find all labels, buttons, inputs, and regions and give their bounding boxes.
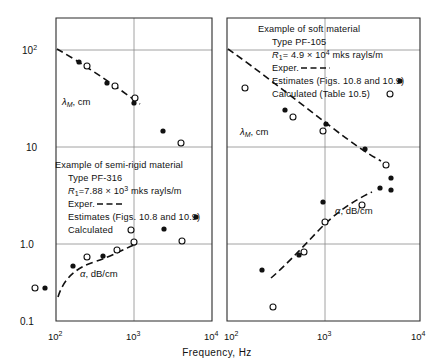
panel-right-alpha-label: α, dB/cm	[335, 205, 373, 216]
panel-left: λM, cm α, dB/cm Example of semi-rigid ma…	[32, 18, 212, 321]
panel-left-legend-title: Example of semi-rigid material	[55, 160, 183, 170]
panel-left-legend-calculated: Calculated	[68, 225, 113, 235]
panel-left-legend-estimates: Estimates (Figs. 10.8 and 10.9)	[68, 212, 200, 222]
panel-right-legend-estimates: Estimates (Figs. 10.8 and 10.9)	[272, 76, 404, 86]
panel-left-alpha-estimates	[42, 226, 166, 290]
panel-left-legend: Example of semi-rigid material Type PF-3…	[55, 160, 200, 235]
panel-left-alpha-calculated	[32, 238, 185, 291]
x-tick-right-10000: 104	[411, 330, 426, 342]
y-tick-0.1: 0.1	[20, 316, 34, 327]
x-tick-right-1000: 103	[317, 330, 332, 342]
figure-container: λM, cm α, dB/cm Example of semi-rigid ma…	[0, 0, 434, 360]
panel-left-lambda-label: λM, cm	[61, 96, 91, 108]
panel-right-gridlines	[227, 18, 420, 321]
panel-right: λM, cm α, dB/cm Example of soft material…	[227, 18, 420, 321]
panel-right-lambda-fit	[228, 49, 381, 161]
panel-right-legend-resistivity: R1= 4.9 × 104 mks rayls/m	[272, 49, 383, 61]
x-axis-ticklabels: 102 103 104 102 103 104	[48, 330, 426, 342]
panel-right-legend-type: Type PF-105	[272, 37, 326, 47]
x-tick-left-10000: 104	[204, 330, 219, 342]
panel-left-alpha-label: α, dB/cm	[80, 268, 118, 279]
panel-right-legend-calculated-marker	[387, 91, 393, 97]
panel-left-lambda-fit	[57, 49, 140, 104]
panel-right-legend-estimates-marker	[397, 78, 402, 83]
panel-left-legend-resistivity: R1=7.88 × 103 mks rayls/m	[68, 185, 182, 197]
y-tick-100: 102	[22, 44, 37, 56]
panel-left-legend-type: Type PF-316	[68, 173, 122, 183]
panel-left-legend-estimates-marker	[193, 214, 198, 219]
x-tick-right-100: 102	[224, 330, 239, 342]
panel-left-legend-calculated-marker	[128, 227, 134, 233]
panel-right-lambda-label: λM, cm	[239, 126, 269, 138]
x-axis-title: Frequency, Hz	[182, 347, 251, 358]
panel-right-legend-exper: Exper.	[272, 63, 299, 73]
y-tick-1: 1.0	[20, 239, 34, 250]
x-tick-left-100: 102	[48, 330, 63, 342]
x-tick-left-1000: 103	[126, 330, 141, 342]
panel-right-alpha-calculated	[270, 202, 365, 310]
panel-right-legend: Example of soft material Type PF-105 R1=…	[258, 24, 404, 99]
panel-left-legend-exper: Exper.	[68, 199, 95, 209]
panel-right-legend-title: Example of soft material	[258, 24, 360, 34]
panel-right-legend-calculated: Calculated (Table 10.5)	[272, 89, 370, 99]
y-tick-10: 10	[26, 142, 38, 153]
panel-right-frame	[227, 18, 420, 321]
